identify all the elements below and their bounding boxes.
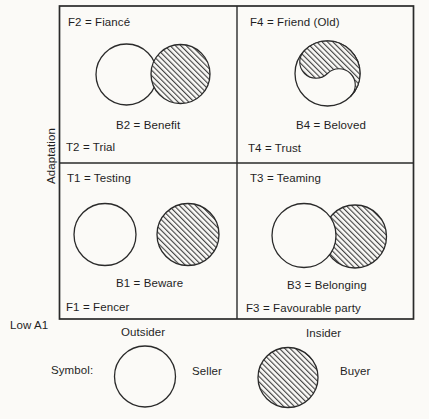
y-axis-origin-label: Low A1 — [10, 319, 48, 331]
seller-circle-icon — [96, 44, 157, 105]
quadrant-top-left-b-label: B2 = Benefit — [116, 119, 180, 131]
quadrant-bottom-right-t-label: T3 = Teaming — [250, 172, 321, 184]
quadrant-bottom-right-f-label: F3 = Favourable party — [246, 302, 361, 314]
quadrant-top-left-t-label: T2 = Trial — [66, 141, 115, 153]
quadrant-bottom-left-b-label: B1 = Beware — [116, 277, 183, 289]
buyer-seller-relationship-diagram: F2 = Fiancé B2 = Benefit T2 = Trial F4 =… — [0, 0, 429, 419]
quadrant-bottom-left-f-label: F1 = Fencer — [66, 301, 129, 313]
buyer-circle-icon — [157, 204, 219, 266]
legend-title: Symbol: — [51, 364, 93, 376]
seller-circle-icon — [272, 204, 336, 268]
legend-seller-label: Seller — [192, 365, 222, 377]
quadrant-bottom-right-symbol — [272, 204, 387, 269]
quadrant-bottom-left-symbol — [74, 204, 219, 266]
quadrant-top-right-symbol — [295, 41, 360, 106]
legend-buyer-circle-icon — [258, 348, 318, 408]
quadrant-top-left-f-label: F2 = Fiancé — [68, 16, 130, 28]
quadrant-top-right-f-label: F4 = Friend (Old) — [250, 16, 340, 28]
seller-circle-icon — [74, 204, 136, 266]
legend-seller-circle-icon — [115, 346, 176, 407]
legend-buyer-label: Buyer — [340, 365, 371, 377]
quadrant-top-right-b-label: B4 = Beloved — [296, 119, 366, 131]
quadrant-bottom-right-b-label: B3 = Belonging — [287, 279, 367, 291]
x-axis-category-insider: Insider — [306, 327, 341, 339]
quadrant-top-left-symbol — [96, 44, 210, 105]
y-axis-label: Adaptation — [45, 121, 57, 191]
buyer-circle-icon — [151, 45, 210, 104]
x-axis-category-outsider: Outsider — [121, 326, 165, 338]
quadrant-top-right-t-label: T4 = Trust — [248, 142, 301, 154]
diagram-graphics — [0, 0, 429, 419]
quadrant-bottom-left-t-label: T1 = Testing — [67, 172, 131, 184]
